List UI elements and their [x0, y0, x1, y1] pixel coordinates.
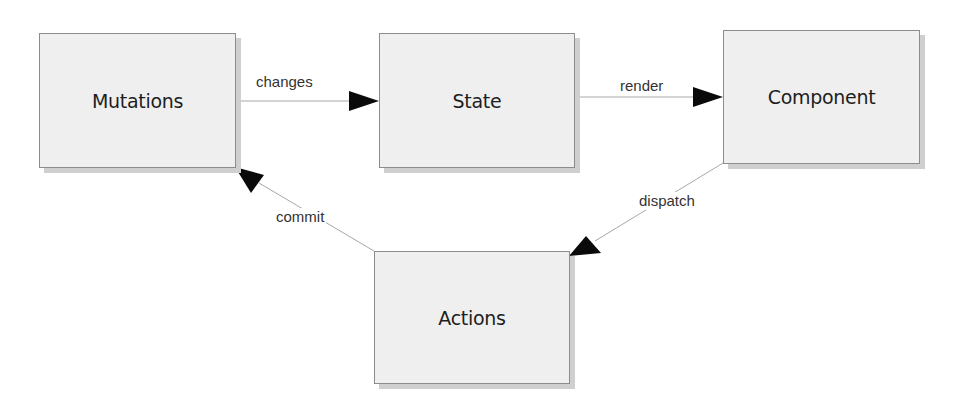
edge-changes-arrow — [235, 91, 379, 111]
arrowhead-icon — [569, 236, 601, 256]
node-mutations-label: Mutations — [92, 90, 183, 112]
vuex-flow-diagram: Mutations State Component Actions change… — [0, 0, 962, 409]
node-actions: Actions — [374, 251, 570, 384]
edge-label-changes: changes — [254, 73, 315, 91]
node-state-label: State — [453, 90, 502, 112]
node-mutations: Mutations — [39, 33, 236, 168]
arrowhead-icon — [693, 87, 723, 107]
node-actions-label: Actions — [438, 307, 505, 329]
edge-label-commit: commit — [274, 208, 326, 226]
arrowhead-icon — [349, 91, 379, 111]
edge-label-dispatch: dispatch — [637, 192, 697, 210]
node-component: Component — [723, 30, 920, 164]
node-state: State — [379, 33, 575, 168]
edge-label-render: render — [618, 77, 665, 95]
arrowhead-icon — [235, 167, 264, 193]
node-component-label: Component — [768, 86, 876, 108]
